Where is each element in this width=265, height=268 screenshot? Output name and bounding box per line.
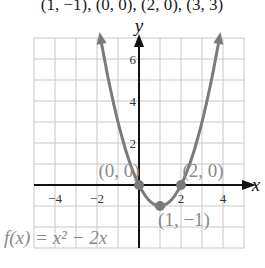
x-tick-label: −4 [48, 191, 62, 206]
point-label: (0, 0) [98, 160, 139, 182]
function-label: f(x) = x² − 2x [4, 227, 108, 249]
point-label: (1, −1) [158, 209, 210, 231]
y-tick-label: 2 [130, 136, 137, 151]
point-marker [134, 180, 144, 190]
key-points: (0, 0)(2, 0)(1, −1) [98, 160, 223, 231]
x-tick-label: 2 [178, 191, 185, 206]
graph-figure: (1, −1), (0, 0), (2, 0), (3, 3) −4−22424… [0, 0, 265, 268]
x-axis-label: x [251, 174, 261, 195]
parabola-plot: (1, −1), (0, 0), (2, 0), (3, 3) −4−22424… [0, 0, 265, 268]
x-tick-label: 4 [220, 191, 227, 206]
y-axis-label: y [133, 15, 144, 36]
x-tick-label: −2 [90, 191, 104, 206]
point-label: (2, 0) [182, 160, 223, 182]
y-tick-label: 6 [130, 52, 137, 67]
point-marker [176, 180, 186, 190]
header-text: (1, −1), (0, 0), (2, 0), (3, 3) [41, 0, 223, 14]
y-tick-label: 4 [130, 94, 137, 109]
